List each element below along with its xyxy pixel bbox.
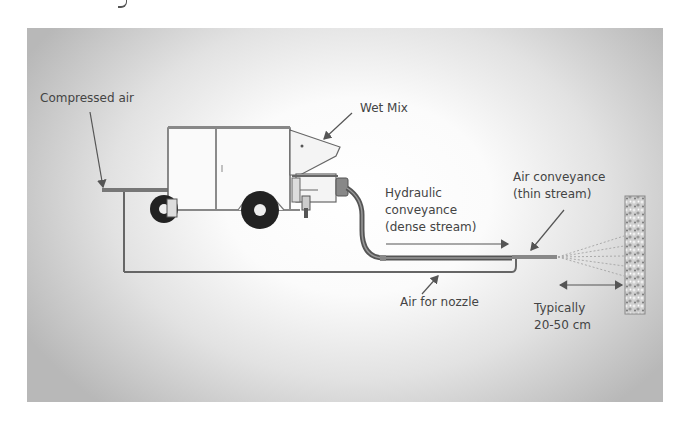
- concrete-wall: [625, 196, 645, 314]
- label-hydraulic-2: conveyance: [385, 203, 457, 218]
- shotcrete-diagram: [0, 0, 689, 448]
- label-air-conveyance-1: Air conveyance: [513, 170, 605, 185]
- label-compressed-air: Compressed air: [40, 91, 134, 106]
- nozzle: [512, 255, 557, 259]
- label-distance-2: 20-50 cm: [534, 318, 591, 333]
- label-air-for-nozzle: Air for nozzle: [400, 295, 479, 310]
- label-air-conveyance-2: (thin stream): [513, 187, 591, 202]
- label-wet-mix: Wet Mix: [360, 101, 408, 116]
- label-distance-1: Typically: [534, 301, 585, 316]
- spray-pattern: [558, 236, 624, 276]
- shotcrete-machine: [150, 126, 348, 229]
- label-hydraulic-1: Hydraulic: [385, 186, 442, 201]
- label-hydraulic-3: (dense stream): [385, 220, 476, 235]
